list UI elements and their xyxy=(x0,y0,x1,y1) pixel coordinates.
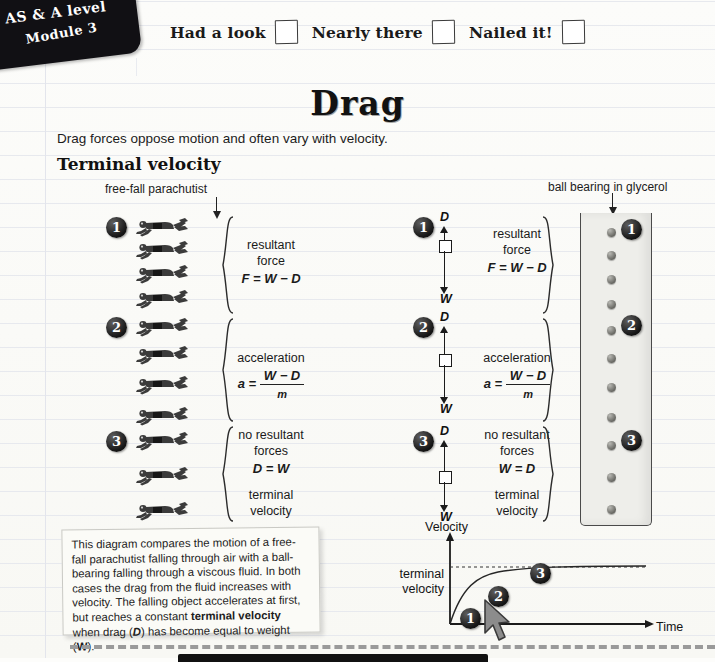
stage-3-line2-middle: forces xyxy=(500,444,534,458)
down-arrow-icon-left xyxy=(212,197,221,219)
parachutist-figure xyxy=(133,290,193,309)
stage-3-label: no resultant forces D = W xyxy=(216,427,326,477)
stage-2-equation-lhs-middle: a = xyxy=(484,376,502,391)
stage-2-denominator: m xyxy=(260,385,304,402)
stage-2-fraction: W − D m xyxy=(260,368,304,402)
stage-1-equation-middle: F = W − D xyxy=(462,260,572,276)
ball-bearing xyxy=(607,413,616,422)
stage-3-equation-middle: W = D xyxy=(462,461,572,477)
stage-badge-3-tube: 3 xyxy=(621,430,642,451)
parachutist-figure xyxy=(133,502,193,521)
stage-2-equation-middle: a = W − D m xyxy=(462,368,572,402)
ball-bearing xyxy=(607,383,616,392)
stage-3-label-middle: no resultant forces W = D xyxy=(462,427,572,477)
intro-text: Drag forces oppose motion and often vary… xyxy=(57,131,388,146)
page-title: Drag xyxy=(0,84,715,123)
stage-2-numerator: W − D xyxy=(260,368,304,385)
ball-bearing xyxy=(607,300,616,309)
stage-3-terminal-line1-middle: terminal xyxy=(495,488,539,502)
force-label-drag-2: D xyxy=(440,310,449,324)
stage-1-label: resultant force F = W − D xyxy=(216,237,326,287)
force-label-weight-2: W xyxy=(440,402,452,416)
progress-item-nailed-it[interactable]: Nailed it! xyxy=(469,20,585,44)
graph-point-badge-1: 1 xyxy=(460,608,481,629)
ball-bearing xyxy=(607,228,616,237)
force-diagram-stage-1: D W xyxy=(428,212,462,308)
ball-bearing xyxy=(607,326,616,335)
parachutist-figure xyxy=(133,265,193,284)
parachutist-figure xyxy=(133,376,193,395)
stage-3-terminal-line1: terminal xyxy=(249,488,293,502)
stage-2-equation-lhs: a = xyxy=(238,376,256,391)
force-diagram-stage-2: D W xyxy=(428,312,462,422)
bottom-dashed-separator xyxy=(70,645,715,649)
stage-1-line1: resultant xyxy=(247,238,295,252)
force-label-drag-1: D xyxy=(440,210,449,224)
progress-label-had-a-look: Had a look xyxy=(170,23,266,42)
stage-badge-2-parachutist: 2 xyxy=(106,317,127,338)
stage-2-line1: acceleration xyxy=(237,351,304,365)
stage-badge-1-parachutist: 1 xyxy=(106,217,127,238)
note-text-part-3: when drag ( xyxy=(73,625,133,638)
parachutist-figure xyxy=(133,241,193,260)
ball-bearing xyxy=(607,275,616,284)
stage-3-line2: forces xyxy=(254,444,288,458)
ball-bearing xyxy=(607,473,616,482)
stage-2-equation: a = W − D m xyxy=(216,368,326,402)
stage-3-terminal-line2: velocity xyxy=(250,504,292,518)
stage-3-equation: D = W xyxy=(216,461,326,477)
parachutist-figure xyxy=(133,467,193,486)
progress-checkbox-nearly-there[interactable] xyxy=(432,20,455,44)
explanation-note: This diagram compares the motion of a fr… xyxy=(61,526,320,635)
velocity-time-graph: Velocity Time terminal velocity 1 2 3 xyxy=(398,520,698,648)
stage-1-line2: force xyxy=(257,254,285,268)
parachutist-figure xyxy=(133,432,193,451)
force-label-weight-1: W xyxy=(440,292,452,306)
progress-label-nearly-there: Nearly there xyxy=(312,23,423,42)
graph-point-badge-3: 3 xyxy=(530,563,551,584)
progress-checkbox-nailed-it[interactable] xyxy=(562,20,585,44)
stage-badge-1-tube: 1 xyxy=(621,219,642,240)
down-arrow-icon-right xyxy=(608,193,617,215)
ball-bearing xyxy=(607,505,616,514)
force-label-drag-3: D xyxy=(440,424,449,438)
graph-plot-area xyxy=(398,520,698,648)
stage-3-line1: no resultant xyxy=(238,428,303,442)
ball-bearing xyxy=(607,354,616,363)
parachutist-figure xyxy=(133,318,193,337)
progress-checkbox-had-a-look[interactable] xyxy=(274,20,297,44)
brace-stage-3-middle xyxy=(541,426,554,522)
stage-badge-3-parachutist: 3 xyxy=(106,431,127,452)
stage-1-line2-middle: force xyxy=(503,243,531,257)
stage-badge-2-tube: 2 xyxy=(621,315,642,336)
progress-item-had-a-look[interactable]: Had a look xyxy=(170,20,298,44)
stage-3-terminal-label: terminal velocity xyxy=(216,487,326,519)
secondary-rule-line xyxy=(136,58,137,76)
stage-1-equation: F = W − D xyxy=(216,271,326,287)
stage-2-label-middle: acceleration a = W − D m xyxy=(462,350,572,402)
force-diagram-stage-3: D W xyxy=(428,426,462,526)
parachutist-figure xyxy=(133,346,193,365)
module-tab-module: Module 3 xyxy=(25,19,99,46)
parachutist-figure xyxy=(133,407,193,426)
parachutist-figure xyxy=(133,218,193,237)
margin-rule-line xyxy=(45,58,46,658)
stage-3-terminal-label-middle: terminal velocity xyxy=(462,487,572,519)
progress-item-nearly-there[interactable]: Nearly there xyxy=(312,20,455,44)
stage-3-terminal-line2-middle: velocity xyxy=(496,504,538,518)
caption-ball-bearing-in-glycerol: ball bearing in glycerol xyxy=(548,180,667,194)
brace-stage-1-middle xyxy=(541,216,554,314)
stage-1-line1-middle: resultant xyxy=(493,227,541,241)
bottom-black-bar xyxy=(178,654,488,662)
glycerol-tube xyxy=(580,213,652,526)
mouse-cursor-icon xyxy=(482,598,512,644)
progress-label-nailed-it: Nailed it! xyxy=(469,23,553,42)
brace-stage-2-middle xyxy=(541,318,554,422)
ball-bearing xyxy=(607,441,616,450)
stage-1-label-middle: resultant force F = W − D xyxy=(462,226,572,276)
stage-2-label: acceleration a = W − D m xyxy=(216,350,326,402)
caption-free-fall-parachutist: free-fall parachutist xyxy=(105,182,207,196)
ball-bearing xyxy=(607,251,616,260)
progress-checkbox-row: Had a look Nearly there Nailed it! xyxy=(170,20,585,44)
stage-3-line1-middle: no resultant xyxy=(484,428,549,442)
